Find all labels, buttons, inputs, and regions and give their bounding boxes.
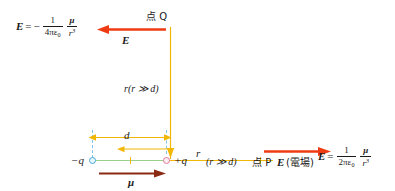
equation-p-denominator-subscript: 0 (351, 162, 354, 168)
vertical-distance-label: r(r ≫ d) (124, 84, 158, 94)
vertical-distance-condition: (r ≫ d) (128, 83, 159, 94)
separation-dimension-d (88, 132, 172, 143)
equation-p-moment-numerator: μ (360, 146, 371, 157)
positive-charge-marker (163, 157, 170, 164)
field-at-p-label: E (277, 157, 284, 168)
dipole-field-figure: E = − 1 4πε0 μ r3 点 Q E r(r ≫ d) (0, 0, 395, 191)
dipole-midpoint-tick (130, 157, 131, 164)
equation-field-at-q: E = − 1 4πε0 μ r3 (16, 16, 78, 38)
negative-charge-label: −q (71, 155, 84, 166)
equation-field-at-p: E = 1 2πε0 μ r3 (318, 146, 372, 168)
equation-q-denominator-exponent: 3 (72, 28, 75, 34)
field-at-p-annotation: (電場) (286, 158, 314, 168)
equation-p-denominator-text: 2πε (339, 157, 352, 167)
equation-p-denominator-exponent: 3 (366, 158, 369, 164)
equation-p-coefficient-denominator: 2πε0 (337, 157, 357, 168)
equation-q-denominator-text: 4πε (45, 27, 58, 37)
equation-p-lhs: E (318, 151, 325, 162)
equation-p-coefficient-numerator: 1 (337, 146, 357, 157)
field-arrow-at-q (96, 24, 168, 35)
equation-p-coefficient-fraction: 1 2πε0 (337, 146, 357, 168)
midpoint-indicator-arrow (115, 146, 173, 157)
equation-q-lhs: E (16, 21, 23, 32)
equation-p-equals: = (327, 151, 333, 162)
horizontal-distance-r: r (196, 148, 200, 159)
equation-q-coefficient-denominator: 4πε0 (43, 27, 63, 38)
dipole-axis-segment (95, 160, 167, 161)
separation-label-d: d (124, 130, 130, 141)
equation-p-moment-fraction: μ r3 (360, 146, 371, 168)
positive-charge-label: +q (174, 155, 187, 166)
equation-q-moment-fraction: μ r3 (67, 16, 78, 38)
equation-p-moment-denominator: r3 (360, 157, 371, 168)
equation-q-equals: = (25, 21, 31, 32)
horizontal-distance-condition: (r ≫ d) (206, 157, 237, 167)
equation-q-coefficient-fraction: 1 4πε0 (43, 16, 63, 38)
point-p-label: 点 P (252, 158, 271, 168)
negative-charge-marker (89, 157, 96, 164)
field-at-q-label: E (122, 35, 129, 46)
equation-q-moment-numerator: μ (67, 16, 78, 27)
equation-q-sign: − (34, 21, 40, 32)
equation-q-denominator-subscript: 0 (58, 32, 61, 38)
dipole-moment-label: μ (128, 177, 134, 188)
equation-q-coefficient-numerator: 1 (43, 16, 63, 27)
point-q-label: 点 Q (146, 12, 167, 22)
equation-q-moment-denominator: r3 (67, 27, 78, 38)
